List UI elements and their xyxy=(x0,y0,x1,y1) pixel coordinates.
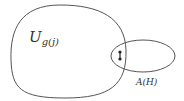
node-v1 xyxy=(118,50,121,53)
set-diagram: Ug(j) A(H) xyxy=(0,0,184,101)
region-a-label: A(H) xyxy=(135,77,158,87)
region-u-outline xyxy=(11,5,126,98)
region-u-label: Ug(j) xyxy=(29,28,59,47)
region-u-label-sub: g(j) xyxy=(42,36,59,47)
node-v2 xyxy=(118,57,121,60)
